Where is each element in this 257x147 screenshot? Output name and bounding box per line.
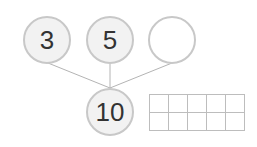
ten-frame — [150, 95, 245, 131]
connector-line-3 — [110, 63, 172, 88]
part-1-value: 3 — [23, 16, 71, 64]
part-2-value: 5 — [86, 16, 134, 64]
whole-value: 10 — [86, 88, 134, 136]
connector-line-1 — [48, 63, 110, 88]
part-3-value — [148, 16, 196, 64]
